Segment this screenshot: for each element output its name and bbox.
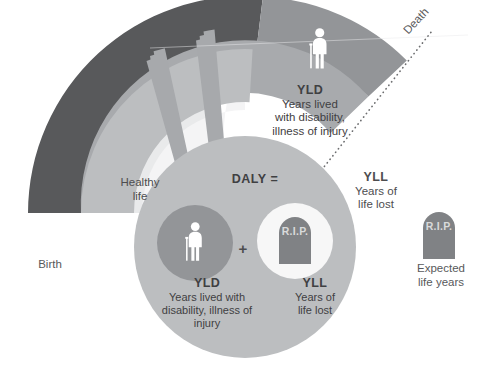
daly-equation-label: DALY = <box>205 172 305 187</box>
yll-core-title: YLL <box>272 276 358 291</box>
yld-arc-line2: with disability, <box>248 111 372 125</box>
yld-arc-label: YLD Years lived with disability, illness… <box>248 83 372 138</box>
daly-infographic: R.I.P. R.I.P. Birth Healthy life YLD Yea… <box>0 0 490 387</box>
yll-core-line2: life lost <box>272 304 358 317</box>
healthy-life-line1: Healthy <box>106 176 174 190</box>
birth-label: Birth <box>10 258 90 272</box>
yld-core-label: YLD Years lived with disability, illness… <box>144 276 270 330</box>
yld-arc-line3: illness of injury <box>248 125 372 139</box>
yld-arc-line1: Years lived <box>248 98 372 112</box>
healthy-life-line2: life <box>106 190 174 204</box>
yll-arc-line1: Years of <box>330 185 422 199</box>
rip-text-expected: R.I.P. <box>426 220 453 232</box>
healthy-life-label: Healthy life <box>106 176 174 203</box>
plus-sign: + <box>234 240 252 257</box>
yld-core-line1: Years lived with <box>144 291 270 304</box>
yll-arc-label: YLL Years of life lost <box>330 170 422 212</box>
yld-core-line2: disability, illness of <box>144 304 270 317</box>
yll-core-label: YLL Years of life lost <box>272 276 358 317</box>
yll-arc-title: YLL <box>330 170 422 185</box>
expected-life-line1: Expected <box>398 262 484 276</box>
expected-life-line2: life years <box>398 276 484 290</box>
yld-arc-title: YLD <box>248 83 372 98</box>
rip-text-core: R.I.P. <box>282 225 309 237</box>
yld-core-line3: injury <box>144 317 270 330</box>
yld-core-title: YLD <box>144 276 270 291</box>
birth-label-text: Birth <box>38 258 62 270</box>
expected-life-years-label: Expected life years <box>398 262 484 289</box>
yll-arc-line2: life lost <box>330 198 422 212</box>
baby-icon <box>38 218 56 245</box>
yll-core-line1: Years of <box>272 291 358 304</box>
